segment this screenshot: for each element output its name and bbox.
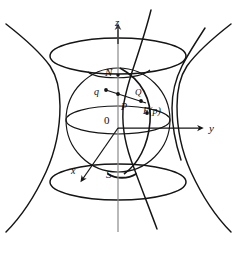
hyperboloid-left-branch — [6, 24, 60, 232]
x-axis-label: x — [70, 165, 76, 176]
figure-canvas: z y x 0 N S q Q P F(p) — [0, 0, 238, 253]
point-marker-q — [104, 88, 108, 92]
north-pole-label: N — [104, 66, 113, 78]
point-Fp-label: F(p) — [142, 105, 161, 117]
sphere-meridian-arc — [120, 68, 150, 174]
math-figure: z y x 0 N S q Q P F(p) — [0, 0, 238, 253]
point-Q-label: Q — [135, 87, 142, 97]
point-P-label: P — [120, 101, 127, 112]
point-marker-P — [116, 92, 120, 96]
z-axis-label: z — [114, 16, 120, 28]
point-q-label: q — [94, 86, 99, 97]
hyperboloid-inner-left-branch — [123, 10, 157, 229]
south-pole-arc — [108, 174, 136, 178]
y-axis-label: y — [208, 122, 214, 134]
origin-label: 0 — [104, 114, 110, 126]
point-marker-Q — [139, 99, 143, 103]
south-pole-label: S — [106, 168, 112, 180]
point-marker-N — [116, 73, 119, 76]
